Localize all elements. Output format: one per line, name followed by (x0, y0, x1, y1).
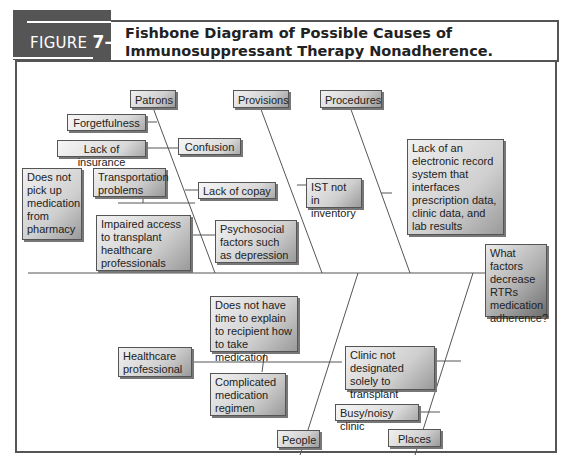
cause-does-not-pick-up: Does not pick up medication from pharmac… (22, 168, 82, 240)
category-provisions: Provisions (233, 90, 289, 108)
cause-ist-not-in-inventory: IST not in inventory (306, 178, 362, 208)
cause-lack-of-copay: Lack of copay (198, 182, 276, 199)
problem-statement: What factors decrease RTRs medication ad… (485, 244, 547, 317)
cause-lack-of-ehr: Lack of an electronic record system that… (407, 139, 504, 235)
category-places: Places (388, 429, 441, 447)
category-patrons: Patrons (130, 90, 176, 108)
cause-healthcare-professional: Healthcare professional (118, 347, 192, 377)
cause-confusion: Confusion (178, 138, 241, 155)
cause-forgetfulness: Forgetfulness (67, 114, 146, 131)
category-people: People (277, 430, 320, 448)
cause-lack-of-insurance: Lack of insurance (57, 140, 146, 157)
category-procedures: Procedures (320, 90, 382, 108)
cause-clinic-not-designated: Clinic not designated solely to transpla… (345, 346, 435, 390)
cause-transportation: Transportation problems (93, 168, 166, 197)
cause-psychosocial: Psychosocial factors such as depression (215, 220, 297, 263)
cause-busy-clinic: Busy/noisy clinic (335, 404, 419, 421)
cause-impaired-access: Impaired access to transplant healthcare… (96, 215, 191, 271)
cause-no-time-to-explain: Does not have time to explain to recipie… (210, 296, 298, 352)
cause-complicated-regimen: Complicated medication regimen (210, 373, 286, 416)
